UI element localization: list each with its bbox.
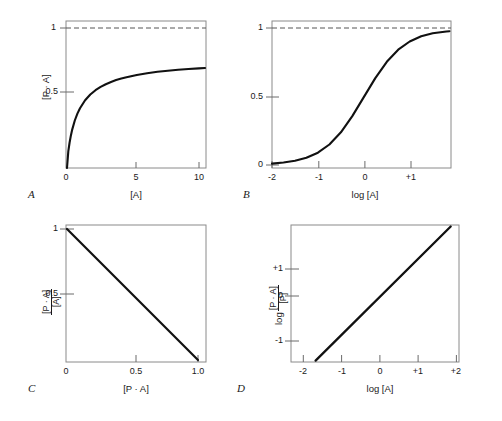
panel-d-ytick-label-pos1: +1 <box>273 263 283 273</box>
panel-b: [P · A] 1 0.5 0 -2 -1 0 +1 log [A] B <box>251 0 502 210</box>
plot-frame <box>66 21 206 168</box>
panel-d-letter: D <box>237 382 245 394</box>
binding-curve-a <box>67 68 205 168</box>
panel-b-plot <box>251 0 502 210</box>
panel-d-xtick-label-neg2: -2 <box>299 366 307 376</box>
panel-a-xtick-label-5: 5 <box>133 172 138 182</box>
panel-a: [P · A] 1 0.5 0 5 10 [A] A <box>0 0 251 210</box>
panel-d-ytick-label-neg1: -1 <box>275 335 283 345</box>
panel-b-letter: B <box>243 188 250 200</box>
panel-c-xlabel: [P · A] <box>123 383 149 394</box>
panel-b-xtick-label-neg2: -2 <box>268 172 276 182</box>
panel-c-xtick-label-0: 0 <box>63 366 68 376</box>
panel-d-xtick-label-0: 0 <box>377 366 382 376</box>
panel-a-ytick-label-1: 1 <box>51 22 56 32</box>
panel-c-xtick-label-10: 1.0 <box>192 366 205 376</box>
plot-frame <box>291 225 459 362</box>
binding-curve-b <box>272 31 450 163</box>
scatchard-line <box>67 229 198 360</box>
panel-d-ytick-label-0: 0 <box>278 290 283 300</box>
panel-b-xtick-label-0: 0 <box>362 172 367 182</box>
panel-b-ytick-label-05: 0.5 <box>250 91 263 101</box>
panel-d-xtick-label-pos2: +2 <box>451 366 461 376</box>
panel-b-xtick-label-neg1: -1 <box>315 172 323 182</box>
panel-b-ytick-label-1: 1 <box>258 22 263 32</box>
panel-c: [P · A] [A] 1 0.5 0 0.5 1.0 [P · A] C <box>0 210 251 421</box>
panel-d-xtick-label-neg1: -1 <box>338 366 346 376</box>
panel-b-xtick-label-pos1: +1 <box>406 172 416 182</box>
binding-curves-figure: [P · A] 1 0.5 0 5 10 [A] A <box>0 0 502 421</box>
plot-frame <box>272 21 451 168</box>
plot-frame <box>66 225 206 362</box>
panel-d-ylabel-log-prefix: log <box>273 311 284 325</box>
panel-a-xtick-label-10: 10 <box>194 172 204 182</box>
panel-a-xlabel: [A] <box>130 189 142 200</box>
panel-d: log [P · A] [P] +1 0 -1 -2 -1 0 +1 +2 lo… <box>251 210 502 421</box>
panel-a-ytick-label-05: 0.5 <box>45 86 58 96</box>
panel-a-xtick-label-0: 0 <box>63 172 68 182</box>
panel-b-xlabel: log [A] <box>352 189 379 200</box>
panel-c-xtick-label-05: 0.5 <box>130 366 143 376</box>
panel-a-letter: A <box>28 188 35 200</box>
panel-d-xlabel: log [A] <box>367 383 394 394</box>
hill-plot-line <box>316 227 451 361</box>
panel-a-plot <box>0 0 251 210</box>
panel-c-ytick-label-1: 1 <box>53 223 58 233</box>
panel-b-ytick-label-0: 0 <box>258 159 263 169</box>
panel-c-ytick-label-05: 0.5 <box>45 288 58 298</box>
panel-d-xtick-label-pos1: +1 <box>413 366 423 376</box>
panel-c-letter: C <box>28 382 35 394</box>
